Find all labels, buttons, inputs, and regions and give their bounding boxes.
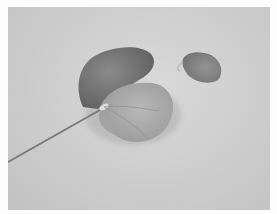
- detached-petal: [182, 52, 221, 83]
- detached-petal-shadow: [178, 62, 183, 71]
- photograph: Grayscale photograph of a single flower …: [8, 7, 270, 210]
- flower-scene: [8, 7, 270, 210]
- photo-frame: Grayscale photograph of a single flower …: [0, 0, 277, 214]
- stem: [8, 110, 100, 162]
